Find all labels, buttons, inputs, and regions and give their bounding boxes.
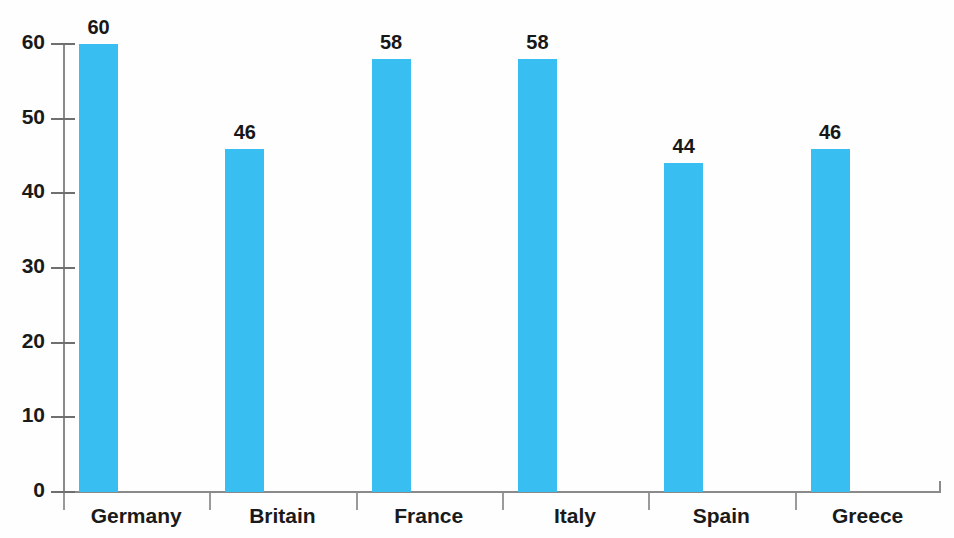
y-axis-tick-label: 50 (0, 105, 45, 129)
category-label-germany: Germany (65, 504, 207, 528)
bar-value-label: 44 (634, 135, 733, 158)
bar-value-label: 58 (488, 31, 587, 54)
bar-spain (664, 163, 703, 492)
y-axis-tick-label: 10 (0, 403, 45, 427)
bar-britain (225, 149, 264, 492)
bar-greece (811, 149, 850, 492)
bar-value-label: 58 (342, 31, 441, 54)
y-axis-tick-label: 40 (0, 179, 45, 203)
category-label-britain: Britain (211, 504, 353, 528)
category-label-italy: Italy (504, 504, 646, 528)
y-axis-tick (51, 416, 75, 418)
y-axis-tick-label: 20 (0, 329, 45, 353)
bar-chart: 6050403020100 60Germany46Britain58France… (0, 0, 954, 538)
x-axis-end-tick (939, 481, 941, 493)
y-axis-tick-label: 30 (0, 254, 45, 278)
y-axis-tick (51, 192, 75, 194)
y-axis-tick-label: 0 (0, 478, 45, 502)
y-axis-tick-label: 60 (0, 30, 45, 54)
category-label-greece: Greece (797, 504, 939, 528)
y-axis-tick (51, 342, 75, 344)
plot-area: 6050403020100 60Germany46Britain58France… (0, 0, 954, 538)
bar-value-label: 46 (195, 121, 294, 144)
y-axis-tick (51, 118, 75, 120)
y-axis-tick (51, 43, 75, 45)
y-axis-tick (51, 267, 75, 269)
bar-value-label: 46 (781, 121, 880, 144)
bar-germany (79, 44, 118, 492)
bar-italy (518, 59, 557, 492)
bar-france (372, 59, 411, 492)
bar-value-label: 60 (49, 16, 148, 39)
category-label-spain: Spain (650, 504, 792, 528)
category-label-france: France (358, 504, 500, 528)
